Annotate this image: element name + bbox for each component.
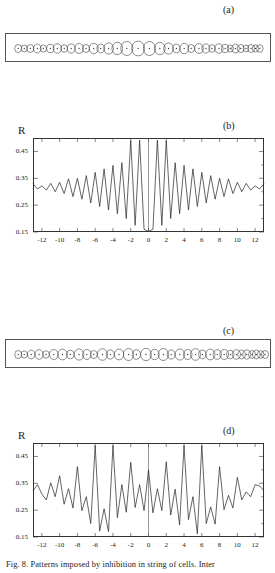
cell-center-dot: [195, 354, 196, 355]
cell-center-dot: [38, 354, 39, 355]
cell-center-dot: [264, 354, 265, 355]
cell-center-dot: [24, 354, 25, 355]
plot-canvas-d: [0, 415, 275, 550]
cell-center-dot: [191, 48, 192, 49]
cell-center-dot: [126, 48, 127, 49]
cell-center-dot: [198, 48, 199, 49]
y-tick-label: 0.15: [4, 533, 28, 541]
x-tick-label: -4: [105, 236, 121, 244]
x-tick-label: 12: [247, 236, 263, 244]
cell-center-dot: [117, 48, 118, 49]
cell-center-dot: [218, 48, 219, 49]
cell-center-dot: [50, 48, 51, 49]
cell-center-dot: [224, 354, 225, 355]
cell-center-dot: [18, 354, 19, 355]
cell-center-dot: [236, 354, 237, 355]
cell-center-dot: [93, 48, 94, 49]
cell-string-box-c: [5, 339, 271, 368]
cell-center-dot: [31, 354, 32, 355]
cell-center-dot: [78, 48, 79, 49]
cell-center-dot: [64, 48, 65, 49]
cell-center-dot: [211, 48, 212, 49]
cell-center-dot: [179, 354, 180, 355]
x-tick-label: 2: [158, 236, 174, 244]
x-tick-label: -10: [52, 236, 68, 244]
cell-center-dot: [108, 48, 109, 49]
cell-center-dot: [118, 354, 119, 355]
cell-center-dot: [86, 354, 87, 355]
y-tick-label: 0.45: [4, 452, 28, 460]
plot-canvas-b: [0, 110, 275, 245]
cell-center-dot: [230, 48, 231, 49]
x-tick-label: -6: [87, 236, 103, 244]
x-tick-label: 2: [158, 541, 174, 549]
cell-center-dot: [241, 354, 242, 355]
cell-center-dot: [30, 48, 31, 49]
cell-string-svg-c: [6, 340, 272, 369]
cell-center-dot: [202, 354, 203, 355]
cell-center-dot: [43, 48, 44, 49]
cell-center-dot: [53, 354, 54, 355]
panel-label-c: (c): [223, 325, 234, 336]
y-tick-label: 0.35: [4, 479, 28, 487]
cell-center-dot: [70, 354, 71, 355]
cell-center-dot: [255, 48, 256, 49]
cell-center-dot: [138, 48, 139, 49]
cell-center-dot: [78, 354, 79, 355]
cell-string-box-a: [5, 33, 271, 62]
cell-center-dot: [85, 48, 86, 49]
x-tick-label: 0: [141, 236, 157, 244]
cell-center-dot: [102, 354, 103, 355]
cell-center-dot: [251, 48, 252, 49]
cell-center-dot: [224, 48, 225, 49]
cell-center-dot: [136, 354, 137, 355]
cell-center-dot: [145, 354, 146, 355]
cell-center-dot: [246, 354, 247, 355]
cell-center-dot: [235, 48, 236, 49]
x-tick-label: 0: [141, 541, 157, 549]
x-tick-label: -2: [123, 541, 139, 549]
cell-center-dot: [110, 354, 111, 355]
x-tick-label: -12: [34, 236, 50, 244]
panel-label-a: (a): [223, 4, 234, 15]
y-tick-label: 0.25: [4, 201, 28, 209]
chart-b: 0.150.250.350.45 -12-10-8-6-4-2024681012: [0, 110, 275, 245]
x-tick-label: 6: [194, 236, 210, 244]
cell-center-dot: [171, 354, 172, 355]
x-tick-label: 4: [176, 236, 192, 244]
x-tick-label: -2: [123, 236, 139, 244]
cell-center-dot: [210, 354, 211, 355]
cell-center-dot: [230, 354, 231, 355]
cell-center-dot: [18, 48, 19, 49]
x-tick-label: 12: [247, 541, 263, 549]
x-tick-label: -4: [105, 541, 121, 549]
chart-d: 0.150.250.350.45 -12-10-8-6-4-2024681012: [0, 415, 275, 550]
x-tick-label: -8: [69, 236, 85, 244]
x-tick-label: 10: [229, 541, 245, 549]
cell-center-dot: [154, 354, 155, 355]
x-tick-label: -10: [52, 541, 68, 549]
y-tick-label: 0.35: [4, 174, 28, 182]
cell-center-dot: [159, 48, 160, 49]
cell-center-dot: [149, 48, 150, 49]
x-tick-label: -6: [87, 541, 103, 549]
cell-center-dot: [240, 48, 241, 49]
cell-string-svg-a: [6, 34, 272, 63]
cell-center-dot: [128, 354, 129, 355]
cell-center-dot: [71, 48, 72, 49]
y-tick-label: 0.15: [4, 228, 28, 236]
cell-center-dot: [187, 354, 188, 355]
cell-center-dot: [260, 354, 261, 355]
cell-center-dot: [163, 354, 164, 355]
cell-center-dot: [256, 354, 257, 355]
cell-center-dot: [205, 48, 206, 49]
cell-center-dot: [176, 48, 177, 49]
cell-center-dot: [45, 354, 46, 355]
cell-string-row-c: [6, 340, 270, 367]
cell-center-dot: [259, 48, 260, 49]
cell-string-row-a: [6, 34, 270, 61]
cell-center-dot: [100, 48, 101, 49]
cell-center-dot: [168, 48, 169, 49]
cell-center-dot: [62, 354, 63, 355]
x-tick-label: 8: [212, 541, 228, 549]
